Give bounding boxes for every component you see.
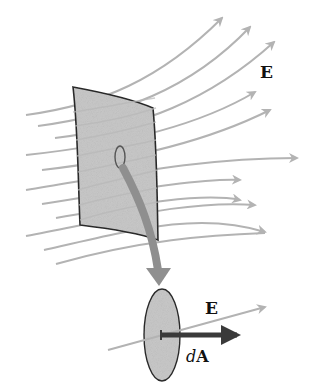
magnify-arrowhead: [146, 268, 171, 286]
area-label-d: d: [186, 347, 196, 366]
field-lines: [26, 18, 297, 264]
flux-diagram: E E dA: [0, 0, 315, 392]
area-vector-label: dA: [186, 347, 209, 366]
field-label-top: E: [260, 62, 273, 82]
field-line-at-element: [108, 307, 265, 350]
field-label-bottom: E: [205, 298, 218, 318]
field-line: [56, 233, 265, 264]
area-label-A: A: [195, 347, 209, 366]
